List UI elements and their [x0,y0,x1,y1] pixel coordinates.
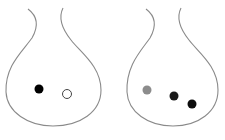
flask-left-particle-hollow [63,90,72,99]
flask-right-particle-filled [170,92,179,101]
flask-right-outline [127,8,218,126]
flask-left [6,8,101,126]
particles-layer [35,85,197,109]
flasks-diagram [0,0,225,140]
flask-left-particle-filled [35,85,44,94]
flask-right-particle-filled [188,100,197,109]
flask-right-particle-filled [143,86,152,95]
flask-left-outline [6,8,101,126]
flask-right [127,8,218,126]
